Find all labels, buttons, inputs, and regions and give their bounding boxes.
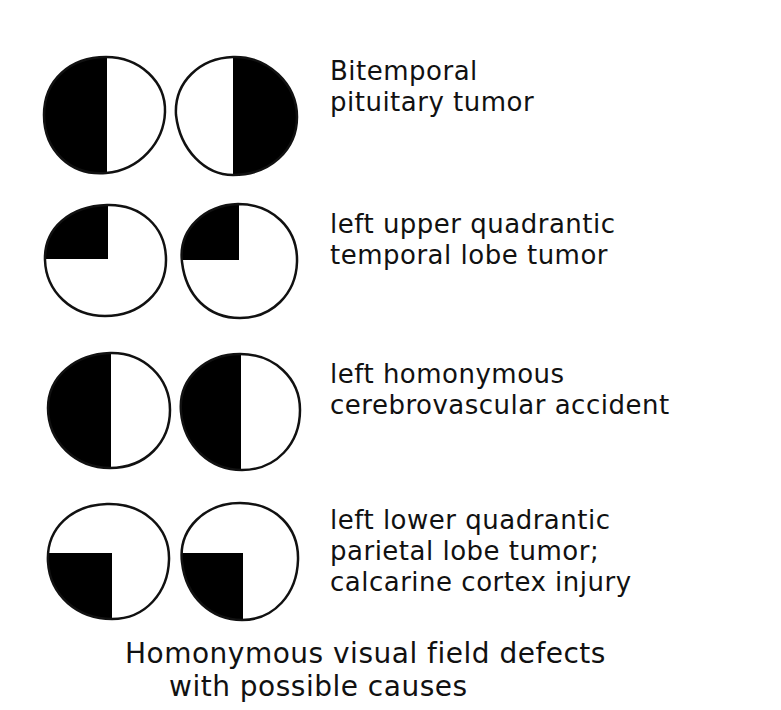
label-line: left upper quadrantic bbox=[330, 209, 616, 240]
left-eye-field bbox=[30, 504, 169, 633]
right-eye-field bbox=[170, 190, 297, 318]
row-left-homonymous bbox=[30, 340, 300, 480]
left-eye-field bbox=[30, 340, 170, 480]
row-left-upper-quadrantic bbox=[30, 190, 297, 318]
left-eye-field bbox=[30, 40, 165, 190]
label-left-upper-quadrantic: left upper quadrantic temporal lobe tumo… bbox=[330, 209, 616, 271]
left-eye-field bbox=[30, 190, 166, 316]
label-line: Bitemporal bbox=[330, 56, 534, 87]
label-line: temporal lobe tumor bbox=[330, 240, 616, 271]
label-line: left homonymous bbox=[330, 359, 670, 390]
label-left-lower-quadrantic: left lower quadrantic parietal lobe tumo… bbox=[330, 505, 632, 598]
label-line: left lower quadrantic bbox=[330, 505, 632, 536]
caption-line-2: with possible causes bbox=[125, 670, 725, 703]
blind-region-right-half bbox=[233, 40, 313, 190]
blind-region-upper-left-quadrant bbox=[170, 190, 239, 260]
right-eye-field bbox=[170, 340, 300, 480]
blind-region-left-half bbox=[30, 340, 111, 480]
blind-region-upper-left-quadrant bbox=[30, 190, 108, 259]
label-left-homonymous: left homonymous cerebrovascular accident bbox=[330, 359, 670, 421]
blind-region-left-half bbox=[30, 40, 107, 190]
row-bitemporal bbox=[30, 40, 313, 190]
caption-line-1: Homonymous visual field defects bbox=[125, 637, 725, 670]
blind-region-lower-left-quadrant bbox=[30, 553, 112, 633]
label-line: cerebrovascular accident bbox=[330, 390, 670, 421]
right-eye-field bbox=[176, 40, 313, 190]
label-line: pituitary tumor bbox=[330, 87, 534, 118]
label-line: calcarine cortex injury bbox=[330, 567, 632, 598]
row-left-lower-quadrantic bbox=[30, 503, 298, 633]
figure-caption: Homonymous visual field defects with pos… bbox=[125, 637, 725, 703]
label-bitemporal: Bitemporal pituitary tumor bbox=[330, 56, 534, 118]
blind-region-lower-left-quadrant bbox=[170, 553, 243, 633]
right-eye-field bbox=[170, 503, 298, 633]
label-line: parietal lobe tumor; bbox=[330, 536, 632, 567]
